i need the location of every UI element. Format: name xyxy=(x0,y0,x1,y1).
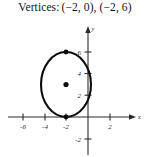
y-tick-label--2: -2 xyxy=(75,136,81,144)
x-axis-arrowhead xyxy=(129,114,136,119)
y-axis-arrowhead xyxy=(85,26,90,33)
vertices-coordinates: (−2, 0), (−2, 6) xyxy=(60,1,132,13)
y-tick-label-4: 4 xyxy=(78,70,82,78)
vertices-caption: Vertices:(−2, 0), (−2, 6) xyxy=(0,1,150,13)
x-tick-label--6: -6 xyxy=(20,123,26,131)
y-tick-label-2: 2 xyxy=(78,92,82,100)
x-axis-label: x xyxy=(137,113,141,120)
x-tick-label--2: -2 xyxy=(63,123,69,131)
vertex-point-bottom xyxy=(64,115,69,120)
y-axis-label: y xyxy=(91,25,95,32)
graph-svg: y x -6 -4 -2 2 6 4 2 -2 xyxy=(0,22,150,157)
coordinate-plane: y x -6 -4 -2 2 6 4 2 -2 xyxy=(0,22,150,157)
x-tick-label--4: -4 xyxy=(42,123,48,131)
figure-page: Vertices:(−2, 0), (−2, 6) y x -6 -4 -2 2 xyxy=(0,0,150,157)
vertices-label: Vertices: xyxy=(18,1,59,13)
vertex-point-top xyxy=(64,50,69,55)
x-tick-label-2: 2 xyxy=(108,123,112,131)
center-point xyxy=(63,82,68,87)
